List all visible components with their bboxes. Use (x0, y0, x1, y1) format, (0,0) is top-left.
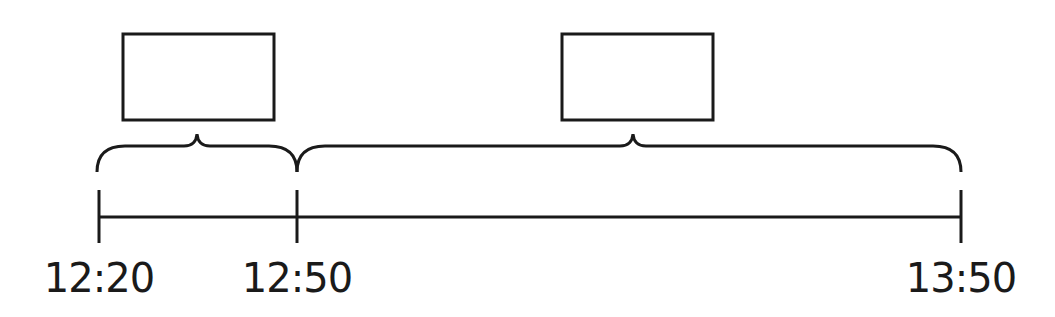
brace-1 (97, 134, 297, 172)
brace-2 (297, 134, 961, 172)
timeline-diagram (0, 0, 1055, 317)
tick-label-3: 13:50 (906, 255, 1016, 301)
tick-label-1: 12:20 (44, 255, 154, 301)
segment-box-1 (123, 34, 274, 120)
tick-label-2: 12:50 (242, 255, 352, 301)
segment-box-2 (562, 34, 713, 120)
